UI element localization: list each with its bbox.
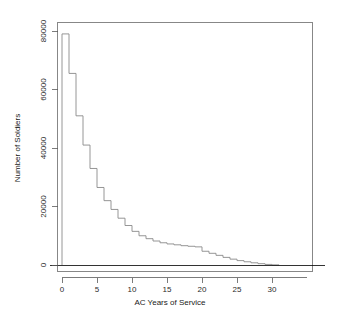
y-tick-label: 0 <box>39 262 48 267</box>
x-axis-label: AC Years of Service <box>134 298 206 307</box>
x-tick-label: 5 <box>95 285 100 294</box>
x-tick-label: 0 <box>60 285 65 294</box>
y-tick-label: 60000 <box>39 78 48 101</box>
y-tick-label: 40000 <box>39 136 48 159</box>
chart-figure: 020000400006000080000 051015202530 AC Ye… <box>0 0 341 328</box>
x-tick-label: 20 <box>198 285 207 294</box>
x-tick-label: 15 <box>163 285 172 294</box>
x-tick-label: 25 <box>233 285 242 294</box>
y-axis-label: Number of Soldiers <box>13 114 22 182</box>
chart-background <box>0 0 341 328</box>
soldiers-by-years-of-service-chart: 020000400006000080000 051015202530 AC Ye… <box>0 0 341 328</box>
y-tick-label: 20000 <box>39 195 48 218</box>
x-tick-label: 30 <box>268 285 277 294</box>
y-tick-label: 80000 <box>39 19 48 42</box>
x-tick-label: 10 <box>128 285 137 294</box>
